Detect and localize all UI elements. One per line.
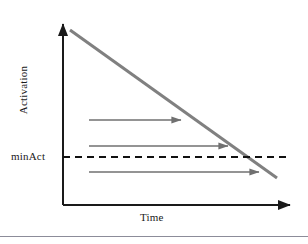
x-axis-title: Time (140, 211, 164, 223)
min-activation-threshold-label: minAct (11, 150, 45, 162)
activation-decay-chart (0, 0, 308, 244)
figure-root: Activation Time minAct (0, 0, 308, 244)
y-axis-title: Activation (17, 45, 29, 135)
bottom-divider-rule (0, 236, 308, 237)
activation-decay-line (70, 30, 277, 178)
decay-line-group (70, 30, 277, 178)
